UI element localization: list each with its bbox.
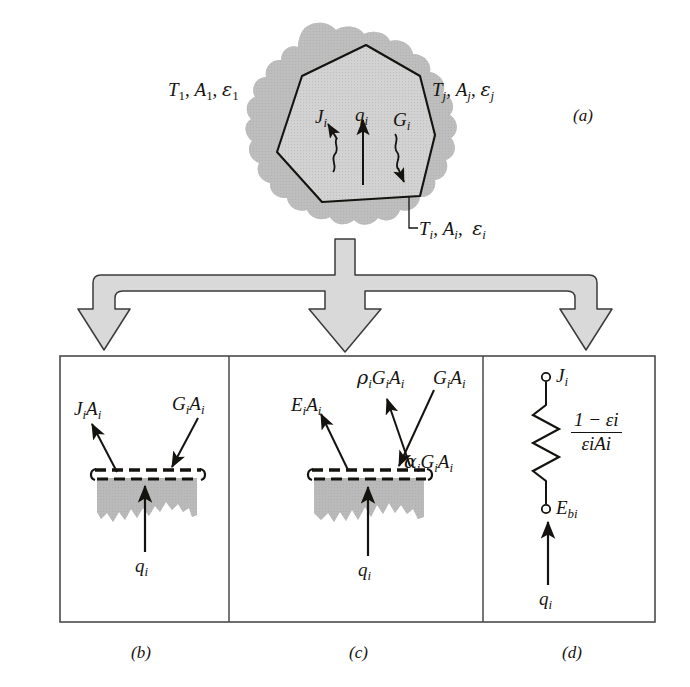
label-absorption-c: αiGiAi xyxy=(404,452,453,475)
node-circle-bottom xyxy=(542,505,550,513)
panel-a-enclosure xyxy=(245,23,456,228)
label-radiosity-b: JiAi xyxy=(74,399,101,422)
node-circle-top xyxy=(542,373,550,381)
label-net-flux-c: qi xyxy=(358,560,371,583)
label-surface-resistance-d: 1 − εi εiAi xyxy=(571,410,622,454)
label-net-flux-a: qi xyxy=(355,105,368,128)
label-surface-i: Ti, Ai, εi xyxy=(419,219,486,242)
figure-artwork xyxy=(0,0,690,687)
label-net-flux-b: qi xyxy=(135,556,148,579)
panel-letter-c: (c) xyxy=(349,643,368,663)
surface-texture-b xyxy=(97,478,197,522)
panel-d-artwork xyxy=(533,373,559,585)
label-irradiation-a: Gi xyxy=(393,110,410,133)
label-source-flux-d: qi xyxy=(539,589,552,612)
distribution-arrow xyxy=(78,239,612,352)
radiation-resistance-figure: T1, A1, ε1 Tj, Aj, εj Ti, Ai, εi Ji qi G… xyxy=(0,0,690,687)
panel-letter-b: (b) xyxy=(131,643,151,663)
label-irradiation-b: GiAi xyxy=(172,394,205,417)
distribution-arrow-shape xyxy=(78,239,612,352)
panel-b-artwork xyxy=(91,418,205,552)
label-reflection-c: ρiGiAi xyxy=(357,368,404,391)
label-radiosity-a: Ji xyxy=(315,107,327,130)
label-surroundings-1: T1, A1, ε1 xyxy=(168,80,239,103)
label-surroundings-j: Tj, Aj, εj xyxy=(432,80,494,103)
panel-letter-d: (d) xyxy=(562,643,582,663)
label-node-blackbody-d: Ebi xyxy=(556,498,578,521)
resistance-numerator: 1 − εi xyxy=(571,410,622,433)
label-emission-c: EiAi xyxy=(291,395,321,418)
radiosity-arrow-b xyxy=(92,424,117,472)
resistance-denominator: εiAi xyxy=(571,433,622,455)
panel-letter-a: (a) xyxy=(573,106,593,126)
irradiation-arrow-b xyxy=(172,418,198,467)
label-node-radiosity-d: Ji xyxy=(556,366,568,389)
emission-arrow-c xyxy=(321,414,348,470)
surface-resistance-resistor xyxy=(533,405,559,481)
label-irradiation-c: GiAi xyxy=(433,368,466,391)
